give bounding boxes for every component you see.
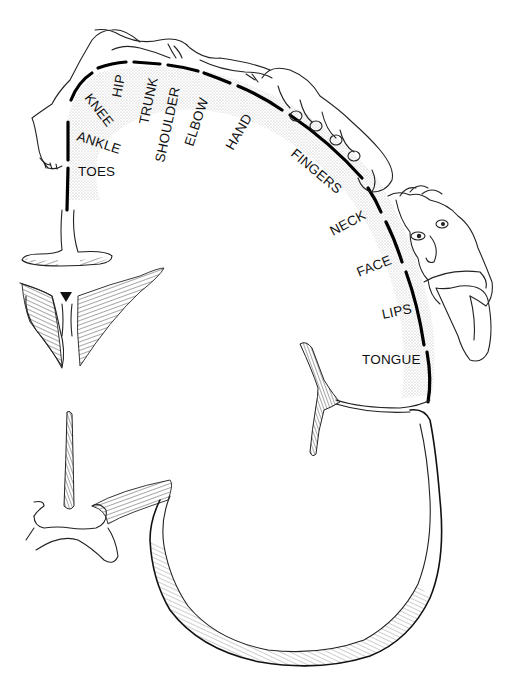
homunculus-figure: TOES ANKLE KNEE HIP TRUNK SHOULDER ELBOW… [0,0,530,682]
label-tongue: TONGUE [362,352,421,367]
brain-cross-section [20,210,442,666]
homunculus-illustration: TOES ANKLE KNEE HIP TRUNK SHOULDER ELBOW… [0,0,530,682]
cortex-stipple-band [68,66,435,398]
label-toes: TOES [78,164,115,179]
label-hand: HAND [223,111,256,152]
label-face: FACE [355,252,394,279]
label-neck: NECK [327,207,368,238]
